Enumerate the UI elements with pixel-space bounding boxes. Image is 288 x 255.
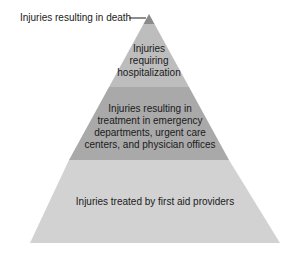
death-label: Injuries resulting in death	[20, 12, 131, 24]
first-aid-label: Injuries treated by first aid providers	[40, 196, 270, 208]
emergency-line-1: Injuries resulting in	[72, 103, 228, 115]
tier-death	[144, 14, 155, 24]
emergency-line-2: treatment in emergency	[72, 115, 228, 127]
emergency-line-4: centers, and physician offices	[72, 139, 228, 151]
hospitalization-label: Injuries requiring hospitalization	[100, 43, 198, 79]
hospitalization-line-3: hospitalization	[100, 67, 198, 79]
hospitalization-line-1: Injuries	[100, 43, 198, 55]
emergency-line-3: departments, urgent care	[72, 127, 228, 139]
emergency-label: Injuries resulting in treatment in emerg…	[72, 103, 228, 151]
hospitalization-line-2: requiring	[100, 55, 198, 67]
